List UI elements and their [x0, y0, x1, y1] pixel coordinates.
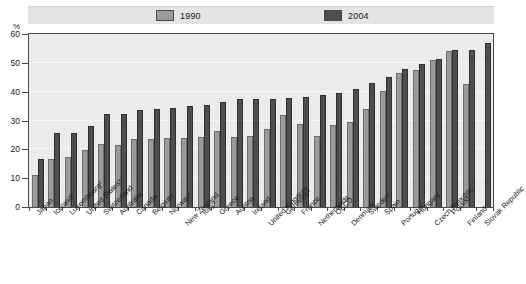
bar-group	[347, 34, 359, 207]
bar-group	[430, 34, 442, 207]
bar-group	[446, 34, 458, 207]
bar-group	[264, 34, 276, 207]
bar-2004-finland	[469, 50, 475, 207]
bar-2004-denmark	[353, 89, 359, 207]
bar-group	[463, 34, 475, 207]
bar-group	[363, 34, 375, 207]
y-tick	[22, 207, 28, 208]
bar-group	[214, 34, 226, 207]
bar-2004-sweden	[369, 83, 375, 207]
bar-group	[396, 34, 408, 207]
y-tick-label: 40	[0, 88, 20, 96]
bar-group	[413, 34, 425, 207]
bar-group	[48, 34, 60, 207]
bar-group	[297, 34, 309, 207]
bar-2004-czechrepublic	[436, 59, 442, 207]
legend-swatch-2004	[324, 10, 342, 21]
bar-group	[314, 34, 326, 207]
bar-2004-norway	[170, 108, 176, 207]
y-tick	[22, 178, 28, 179]
y-tick-label: 10	[0, 174, 20, 182]
bar-group	[82, 34, 94, 207]
bar-group	[65, 34, 77, 207]
bar-2004-poland	[452, 50, 458, 207]
y-tick-label: 20	[0, 145, 20, 153]
chart-legend: 1990 2004	[28, 6, 494, 24]
bar-group	[32, 34, 44, 207]
bar-group	[330, 34, 342, 207]
bar-2004-spain	[386, 77, 392, 207]
bar-group	[479, 34, 491, 207]
bar-2004-germany	[286, 98, 292, 207]
bar-group	[380, 34, 392, 207]
bar-group	[280, 34, 292, 207]
bar-group	[247, 34, 259, 207]
bar-group	[231, 34, 243, 207]
bar-group	[164, 34, 176, 207]
y-tick	[22, 63, 28, 64]
legend-swatch-1990	[156, 10, 174, 21]
bar-2004-netherlands	[320, 95, 326, 207]
bar-2004-slovakrepublic	[485, 43, 491, 207]
legend-label-2004: 2004	[348, 11, 369, 21]
legend-item-1990: 1990	[156, 9, 201, 22]
bar-2004-oecd	[336, 93, 342, 207]
legend-item-2004: 2004	[324, 9, 369, 22]
y-tick-label: 50	[0, 59, 20, 67]
bar-2004-portugal	[402, 69, 408, 207]
y-tick-label: 0	[0, 203, 20, 211]
bar-2004-ireland	[253, 99, 259, 207]
bar-group	[181, 34, 193, 207]
y-tick	[22, 121, 28, 122]
y-tick-label: 60	[0, 30, 20, 38]
bar-2004-belgium	[154, 109, 160, 207]
legend-label-1990: 1990	[180, 11, 201, 21]
bar-2004-hungary	[419, 64, 425, 207]
bar-2004-austria	[237, 99, 243, 207]
bar-2004-unitedkingdom	[270, 99, 276, 207]
y-tick	[22, 34, 28, 35]
bar-2004-italy	[204, 105, 210, 207]
bar-2004-iceland	[54, 133, 60, 207]
y-tick-label: 30	[0, 117, 20, 125]
x-axis-labels: JapanIceland¹Luxembourg²United States³Sw…	[0, 211, 499, 284]
y-tick	[22, 92, 28, 93]
bar-group	[148, 34, 160, 207]
bar-2004-greece	[220, 102, 226, 207]
bar-group	[198, 34, 210, 207]
y-tick	[22, 149, 28, 150]
bar-group	[131, 34, 143, 207]
